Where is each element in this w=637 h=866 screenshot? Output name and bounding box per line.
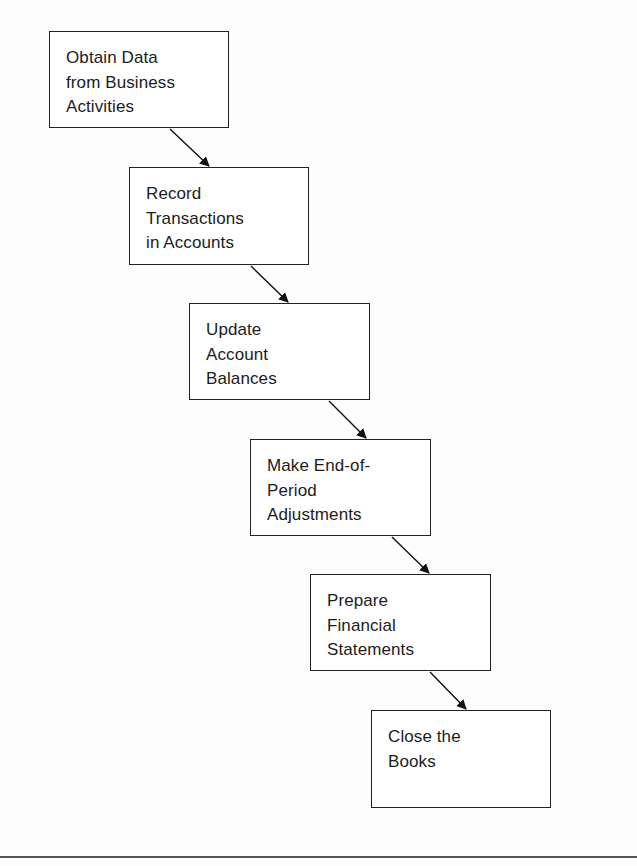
arrow-3-to-4 <box>329 401 366 438</box>
arrow-1-to-2 <box>170 129 209 166</box>
step-box-obtain-data: Obtain Data from Business Activities <box>49 31 229 128</box>
diagram-canvas: Obtain Data from Business Activities Rec… <box>0 0 637 866</box>
step-box-close-books: Close the Books <box>371 710 551 808</box>
step-box-end-of-period-adjustments: Make End-of- Period Adjustments <box>250 439 431 536</box>
step-box-prepare-statements: Prepare Financial Statements <box>310 574 491 671</box>
step-box-update-balances: Update Account Balances <box>189 303 370 400</box>
step-box-record-transactions: Record Transactions in Accounts <box>129 167 309 265</box>
step-label: Prepare Financial Statements <box>327 589 480 663</box>
arrow-2-to-3 <box>251 266 288 302</box>
step-label: Make End-of- Period Adjustments <box>267 454 420 528</box>
step-label: Record Transactions in Accounts <box>146 182 298 256</box>
arrow-5-to-6 <box>430 672 466 709</box>
arrow-4-to-5 <box>392 537 429 573</box>
bottom-divider <box>0 856 637 858</box>
step-label: Update Account Balances <box>206 318 359 392</box>
step-label: Obtain Data from Business Activities <box>66 46 218 120</box>
step-label: Close the Books <box>388 725 540 774</box>
